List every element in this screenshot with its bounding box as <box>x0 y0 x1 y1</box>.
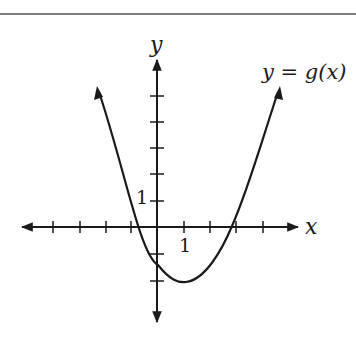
y-axis-label: y <box>150 32 162 57</box>
y-tick-label-one: 1 <box>136 186 148 208</box>
coordinate-plane <box>0 0 356 338</box>
function-label: y = g(x) <box>262 60 346 84</box>
curve-arrow-right-icon <box>274 86 283 100</box>
x-axis-label: x <box>305 214 317 239</box>
x-tick-label-one: 1 <box>179 234 191 256</box>
graph-figure: y x y = g(x) 1 1 <box>0 0 356 338</box>
